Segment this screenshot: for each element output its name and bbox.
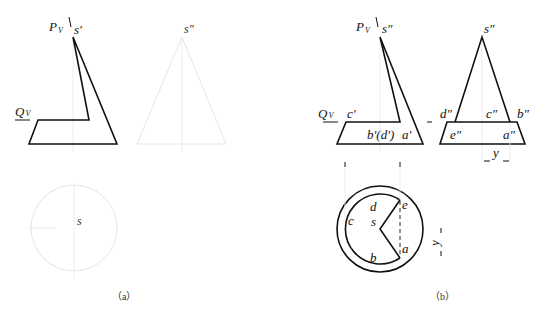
plane-p-label: PV: [355, 19, 371, 35]
apex-label-side: s″: [484, 21, 495, 36]
point-c-label: c″: [486, 106, 498, 121]
caption-b: （b）: [430, 291, 455, 302]
center-label-top: s: [371, 214, 376, 229]
plane-q-label: QV: [318, 106, 334, 121]
plane-p-label: PV: [48, 19, 64, 35]
top-view-a: s: [28, 182, 117, 278]
front-view-a: PV s′ QV: [15, 17, 117, 152]
plane-p-trace: [376, 17, 378, 27]
point-c-label: c′: [347, 106, 356, 121]
dimension-y-label: y: [427, 240, 442, 248]
point-a-label: a″: [503, 127, 516, 142]
projection-drawing: PV s′ QV s″ s （a） PV s″ QV: [0, 0, 541, 318]
point-a-label: a′: [402, 127, 412, 142]
apex-label-side: s″: [184, 22, 195, 36]
front-view-b: PV s″ QV c′ b′(d′) a′: [318, 17, 432, 167]
center-label-top: s: [77, 214, 82, 228]
point-bd-label: b′(d′): [367, 127, 394, 142]
side-view-a: s″: [137, 22, 226, 152]
point-a-label: a: [402, 241, 409, 256]
cone-side-outline-faint: [137, 37, 226, 144]
plane-p-trace: [69, 17, 71, 27]
plane-q-label: QV: [15, 104, 31, 119]
dimension-y-label: y: [491, 145, 499, 160]
point-d-label: d″: [440, 106, 453, 121]
point-e-label: e: [402, 197, 408, 212]
point-d-label: d: [370, 199, 377, 214]
caption-a: （a）: [112, 291, 136, 302]
point-b-label: b: [370, 250, 377, 265]
top-view-b: d e c s b a y: [337, 168, 442, 272]
point-b-label: b″: [517, 106, 530, 121]
point-c-label: c: [348, 213, 354, 228]
apex-label-front: s″: [382, 21, 393, 36]
side-view-b: s″ d″ c″ b″ e″ a″ y: [440, 21, 530, 163]
apex-label-front: s′: [74, 22, 82, 37]
point-e-label: e″: [450, 127, 462, 142]
figure-b: PV s″ QV c′ b′(d′) a′ s″ d″ c″ b″ e″ a″: [318, 17, 530, 302]
cut-lines: [380, 200, 400, 258]
cone-side-upper: [455, 37, 510, 122]
figure-a: PV s′ QV s″ s （a）: [15, 17, 226, 302]
